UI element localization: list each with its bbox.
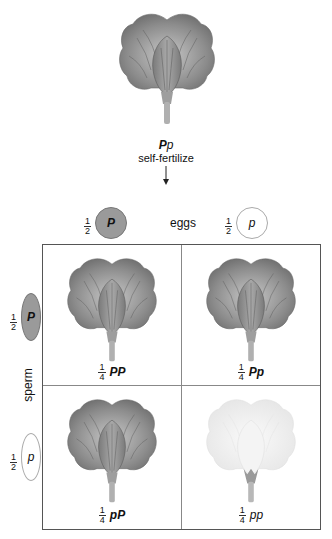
parent-allele-1: P — [159, 138, 167, 152]
punnett-square: 14PP 14Pp 14pP 14pp — [42, 244, 321, 530]
cell-label-Pp: 14Pp — [182, 363, 320, 382]
egg-2-fraction: 12 — [225, 217, 232, 236]
cell-label-pp: 14pp — [182, 506, 320, 525]
sperm-label: sperm — [21, 368, 35, 401]
parent-genotype: Pp — [0, 135, 332, 153]
egg-dominant-P: P — [95, 207, 127, 239]
egg-recessive-p: p — [236, 207, 268, 239]
sperm-1-fraction: 12 — [10, 313, 17, 332]
cell-Pp: 14Pp — [182, 245, 320, 385]
sperm-dominant-P: P — [21, 293, 41, 341]
egg-1-fraction: 12 — [84, 217, 91, 236]
offspring-flower-purple-icon — [62, 253, 162, 365]
self-fertilize-label: self-fertilize — [0, 152, 332, 164]
down-arrow-icon — [161, 166, 171, 186]
cell-pP: 14pP — [43, 386, 181, 526]
parent-allele-2: p — [167, 138, 174, 152]
cell-label-PP: 14PP — [43, 363, 181, 382]
sperm-recessive-p: p — [21, 433, 41, 481]
offspring-flower-purple-icon — [62, 394, 162, 506]
cell-PP: 14PP — [43, 245, 181, 385]
sperm-2-fraction: 12 — [10, 453, 17, 472]
offspring-flower-purple-icon — [201, 253, 301, 365]
parent-flower-purple-icon — [117, 8, 217, 128]
eggs-label: eggs — [170, 216, 196, 230]
cell-pp: 14pp — [182, 386, 320, 526]
cell-label-pP: 14pP — [43, 506, 181, 525]
offspring-flower-white-icon — [201, 394, 301, 506]
